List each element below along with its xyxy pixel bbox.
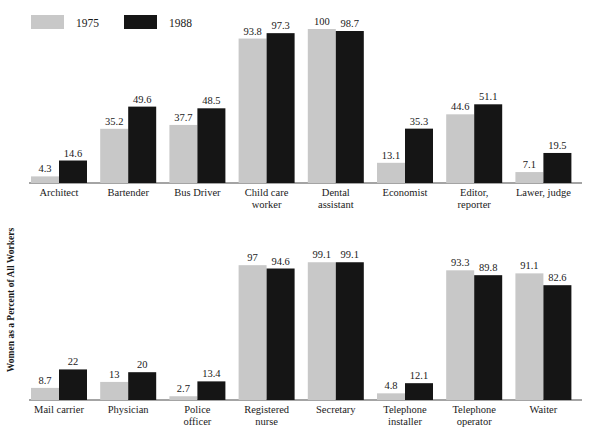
bar-1975 [515, 273, 543, 400]
category-label: Mail carrier [34, 404, 84, 415]
bar-group: 44.651.1Editor,reporter [446, 91, 502, 210]
category-label: Registerednurse [244, 404, 290, 427]
category-label: Physician [108, 404, 150, 415]
bar-1988 [336, 31, 364, 183]
bar-value-label: 35.2 [105, 116, 123, 127]
category-label: Secretary [316, 404, 356, 415]
bar-value-label: 4.3 [38, 163, 51, 174]
bar-1988 [197, 108, 225, 183]
bar-value-label: 20 [137, 359, 148, 370]
category-label: Bartender [107, 187, 149, 198]
bar-1975 [239, 265, 267, 400]
category-label: Policeofficer [184, 404, 212, 427]
category-label: Waiter [530, 404, 558, 415]
bar-1975 [100, 129, 128, 183]
bar-group: 91.182.6Waiter [515, 260, 571, 415]
bar-value-label: 19.5 [548, 140, 566, 151]
bar-group: 93.897.3Child careworker [239, 20, 295, 210]
bar-1988 [405, 383, 433, 400]
bar-group: 8.722Mail carrier [31, 356, 87, 415]
bar-group: 35.249.6Bartender [100, 94, 156, 198]
bar-value-label: 49.6 [133, 94, 151, 105]
bar-1975 [169, 125, 197, 183]
bar-value-label: 13.4 [202, 368, 221, 379]
bar-value-label: 100 [314, 16, 330, 27]
bar-1975 [377, 163, 405, 183]
bar-1988 [405, 129, 433, 183]
category-label: Editor,reporter [458, 187, 492, 210]
chart-panels: 4.314.6Architect35.249.6Bartender37.748.… [29, 16, 582, 427]
bar-1975 [446, 114, 474, 183]
bar-value-label: 8.7 [38, 375, 51, 386]
chart-container: 1975 1988 Women as a Percent of All Work… [0, 0, 592, 436]
bar-group: 37.748.5Bus Driver [169, 95, 225, 198]
bar-value-label: 97.3 [271, 20, 289, 31]
bar-group: 9794.6Registerednurse [239, 252, 295, 427]
grouped-bar-chart: 1975 1988 Women as a Percent of All Work… [0, 0, 592, 436]
bar-value-label: 2.7 [177, 383, 190, 394]
bar-value-label: 91.1 [520, 260, 538, 271]
bar-value-label: 22 [68, 356, 79, 367]
bar-group: 99.199.1Secretary [308, 249, 364, 415]
bar-group: 93.389.8Telephoneoperator [446, 257, 502, 427]
bar-1988 [59, 161, 87, 183]
bar-value-label: 98.7 [341, 18, 359, 29]
bar-group: 4.812.1Telephoneinstaller [377, 370, 433, 427]
bar-1988 [128, 372, 156, 400]
bar-value-label: 99.1 [313, 249, 331, 260]
bottom-panel: 8.722Mail carrier1320Physician2.713.4Pol… [29, 249, 582, 427]
bar-1975 [31, 176, 59, 183]
bar-1988 [267, 269, 295, 400]
bar-1975 [308, 262, 336, 400]
bar-value-label: 13 [109, 369, 120, 380]
bar-value-label: 48.5 [202, 95, 220, 106]
category-label: Economist [383, 187, 428, 198]
bar-1988 [474, 104, 502, 183]
bar-1988 [543, 285, 571, 400]
bar-1988 [474, 275, 502, 400]
bar-group: 7.119.5Lawer, judge [515, 140, 571, 198]
bar-1988 [59, 369, 87, 400]
bar-value-label: 97 [247, 252, 258, 263]
bar-value-label: 51.1 [479, 91, 497, 102]
bar-value-label: 12.1 [410, 370, 428, 381]
category-label: Lawer, judge [516, 187, 571, 198]
category-label: Dentalassistant [318, 187, 354, 210]
bar-group: 4.314.6Architect [31, 148, 87, 198]
bar-1975 [308, 29, 336, 183]
bar-1975 [446, 270, 474, 400]
bar-1975 [239, 39, 267, 183]
bar-group: 13.135.3Economist [377, 116, 433, 198]
bar-value-label: 93.3 [451, 257, 469, 268]
category-label: Telephoneoperator [452, 404, 496, 427]
bar-1975 [515, 172, 543, 183]
bar-value-label: 4.8 [384, 380, 397, 391]
bar-value-label: 7.1 [523, 159, 536, 170]
bar-1988 [267, 33, 295, 183]
category-label: Architect [39, 187, 78, 198]
bar-1975 [31, 388, 59, 400]
bar-1988 [128, 107, 156, 183]
legend-label-1988: 1988 [169, 17, 192, 29]
bar-1988 [336, 262, 364, 400]
category-label: Bus Driver [174, 187, 221, 198]
category-label: Telephoneinstaller [383, 404, 427, 427]
bar-group: 2.713.4Policeofficer [169, 368, 225, 427]
bar-value-label: 89.8 [479, 262, 497, 273]
bar-value-label: 13.1 [382, 150, 400, 161]
bar-value-label: 14.6 [64, 148, 82, 159]
chart-legend: 1975 1988 [31, 15, 192, 29]
bar-value-label: 35.3 [410, 116, 428, 127]
bar-group: 1320Physician [100, 359, 156, 415]
category-label: Child careworker [245, 187, 289, 210]
bar-value-label: 99.1 [341, 249, 359, 260]
bar-value-label: 82.6 [548, 272, 566, 283]
bar-1975 [100, 382, 128, 400]
bar-value-label: 94.6 [271, 256, 289, 267]
legend-label-1975: 1975 [76, 17, 99, 29]
y-axis-title: Women as a Percent of All Workers [6, 228, 16, 373]
bar-1988 [543, 153, 571, 183]
bar-1975 [169, 396, 197, 400]
bar-value-label: 44.6 [451, 101, 469, 112]
bar-value-label: 37.7 [174, 112, 192, 123]
